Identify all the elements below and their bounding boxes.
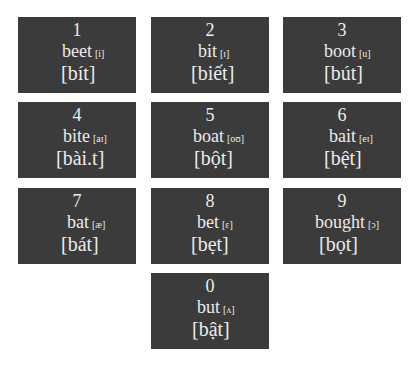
vowel-card-6: 6 bait[eɪ] [bệt] bbox=[283, 102, 401, 178]
english-word: bite bbox=[63, 126, 90, 146]
card-number: 7 bbox=[18, 191, 136, 211]
vowel-card-4: 4 bite[aɪ] [bài.t] bbox=[18, 102, 136, 178]
vietnamese-approximation: [bẹt] bbox=[191, 232, 229, 256]
ipa-symbol: [i] bbox=[95, 48, 104, 59]
vietnamese-approximation: [bát] bbox=[61, 232, 99, 256]
vietnamese-approximation: [bút] bbox=[324, 61, 363, 85]
vietnamese-approximation: [bài.t] bbox=[56, 146, 104, 170]
card-number: 5 bbox=[151, 105, 269, 125]
ipa-symbol: [ɛ] bbox=[222, 219, 233, 230]
vowel-card-8: 8 bet[ɛ] [bẹt] bbox=[151, 188, 269, 264]
card-number: 4 bbox=[18, 105, 136, 125]
vietnamese-approximation: [bệt] bbox=[324, 146, 362, 170]
ipa-symbol: [aɪ] bbox=[93, 133, 107, 144]
english-word: bet bbox=[197, 212, 219, 232]
ipa-symbol: [ʌ] bbox=[223, 304, 235, 315]
ipa-symbol: [ɪ] bbox=[220, 48, 229, 59]
vowel-card-0: 0 but[ʌ] [bật] bbox=[151, 273, 269, 349]
vowel-card-9: 9 bought[ɔ] [bọt] bbox=[283, 188, 401, 264]
english-word: bit bbox=[198, 41, 217, 61]
english-word: bought bbox=[315, 212, 365, 232]
card-number: 6 bbox=[283, 105, 401, 125]
ipa-symbol: [ɔ] bbox=[368, 219, 379, 230]
vietnamese-approximation: [bật] bbox=[192, 317, 230, 341]
english-word: boot bbox=[324, 41, 356, 61]
english-word: bat bbox=[67, 212, 89, 232]
english-word: beet bbox=[62, 41, 92, 61]
card-number: 9 bbox=[283, 191, 401, 211]
vowel-card-5: 5 boat[oʊ] [bột] bbox=[151, 102, 269, 178]
card-number: 3 bbox=[283, 20, 401, 40]
ipa-symbol: [eɪ] bbox=[359, 133, 373, 144]
vowel-card-1: 1 beet[i] [bít] bbox=[18, 17, 136, 93]
ipa-symbol: [æ] bbox=[92, 219, 105, 230]
vietnamese-approximation: [bọt] bbox=[319, 232, 358, 256]
card-number: 2 bbox=[151, 20, 269, 40]
vowel-card-2: 2 bit[ɪ] [biết] bbox=[151, 17, 269, 93]
english-word: bait bbox=[329, 126, 356, 146]
card-number: 8 bbox=[151, 191, 269, 211]
vietnamese-approximation: [bít] bbox=[61, 61, 95, 85]
ipa-symbol: [oʊ] bbox=[227, 133, 244, 144]
vowel-card-7: 7 bat[æ] [bát] bbox=[18, 188, 136, 264]
vowel-card-3: 3 boot[u] [bút] bbox=[283, 17, 401, 93]
english-word: but bbox=[197, 297, 220, 317]
vietnamese-approximation: [bột] bbox=[194, 146, 233, 170]
vietnamese-approximation: [biết] bbox=[191, 61, 234, 85]
ipa-symbol: [u] bbox=[359, 48, 371, 59]
card-number: 0 bbox=[151, 276, 269, 296]
english-word: boat bbox=[193, 126, 224, 146]
card-number: 1 bbox=[18, 20, 136, 40]
